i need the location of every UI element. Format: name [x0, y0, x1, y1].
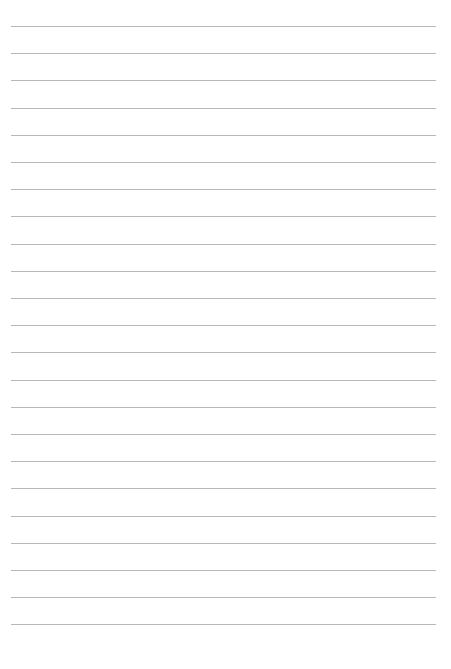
ruled-line [11, 189, 436, 190]
lined-paper-page [0, 0, 451, 669]
ruled-line [11, 298, 436, 299]
ruled-line [11, 516, 436, 517]
ruled-line [11, 244, 436, 245]
ruled-line [11, 543, 436, 544]
ruled-line [11, 488, 436, 489]
ruled-line [11, 624, 436, 625]
ruled-line [11, 135, 436, 136]
ruled-line [11, 53, 436, 54]
ruled-line [11, 216, 436, 217]
ruled-line [11, 80, 436, 81]
ruled-line [11, 162, 436, 163]
ruled-line [11, 597, 436, 598]
ruled-line [11, 570, 436, 571]
ruled-line [11, 407, 436, 408]
ruled-line [11, 352, 436, 353]
ruled-line [11, 108, 436, 109]
ruled-line [11, 434, 436, 435]
ruled-line [11, 461, 436, 462]
ruled-line [11, 26, 436, 27]
ruled-line [11, 325, 436, 326]
ruled-line [11, 380, 436, 381]
ruled-line [11, 271, 436, 272]
